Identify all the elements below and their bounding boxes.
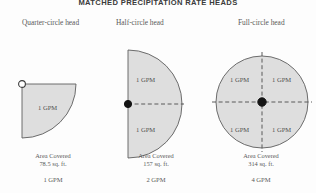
column-heading-full-circle: Full-circle head [238,18,285,27]
gpm-label: 1 GPM [272,76,291,83]
sprinkler-pivot-icon [124,100,131,107]
gpm-label: 1 GPM [272,126,291,133]
diagram-half-circle: 1 GPM 1 GPM [106,28,206,146]
diagram-full-circle: 1 GPM 1 GPM 1 GPM 1 GPM [206,28,316,146]
gpm-label: 1 GPM [230,76,249,83]
caption-area-quarter-circle: Area Covered 78.5 sq. ft. [0,152,106,167]
caption-area-full-circle: Area Covered 314 sq. ft. [206,152,316,167]
area-covered-value: 314 sq. ft. [206,160,316,168]
area-covered-value: 78.5 sq. ft. [0,160,106,168]
area-covered-label: Area Covered [0,152,106,160]
column-half-circle: Half-circle head 1 GPM 1 GPM Area Covere… [106,0,206,193]
column-heading-quarter-circle: Quarter-circle head [22,18,79,27]
column-heading-half-circle: Half-circle head [116,18,164,27]
area-covered-label: Area Covered [106,152,206,160]
caption-area-half-circle: Area Covered 157 sq. ft. [106,152,206,167]
diagram-quarter-circle: 1 GPM [0,28,106,146]
area-covered-value: 157 sq. ft. [106,160,206,168]
gpm-label: 1 GPM [136,76,155,83]
area-covered-label: Area Covered [206,152,316,160]
gpm-label: 1 GPM [230,126,249,133]
column-quarter-circle: Quarter-circle head 1 GPM Area Covered 7… [0,0,106,193]
sprinkler-pivot-icon [19,81,26,88]
total-flow-quarter-circle: 1 GPM [0,176,106,184]
total-flow-full-circle: 4 GPM [206,176,316,184]
sprinkler-pivot-icon [258,98,266,106]
total-flow-half-circle: 2 GPM [106,176,206,184]
quarter-circle-sector [22,84,76,138]
gpm-label: 1 GPM [38,104,57,111]
matched-precipitation-rate-figure: MATCHED PRECIPITATION RATE HEADS Quarter… [0,0,316,193]
gpm-label: 1 GPM [136,126,155,133]
column-full-circle: Full-circle head 1 GPM 1 GPM 1 GPM 1 GPM… [206,0,316,193]
